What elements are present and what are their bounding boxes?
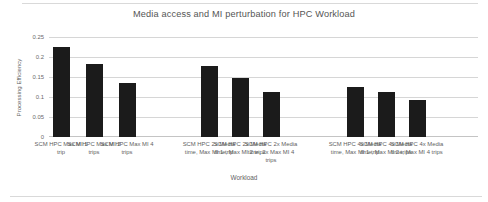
x-axis-title: Workload xyxy=(0,174,488,181)
gridline xyxy=(49,77,478,78)
scan-border-top xyxy=(22,3,478,4)
scan-border-bottom xyxy=(10,196,482,197)
bar xyxy=(86,64,103,137)
y-axis-tick-label: 0 xyxy=(10,134,44,140)
chart-container: Media access and MI perturbation for HPC… xyxy=(0,0,488,202)
plot-area xyxy=(49,37,478,137)
bar xyxy=(53,47,70,137)
bar xyxy=(232,78,249,137)
y-axis-tick-label: 0.05 xyxy=(10,114,44,120)
y-axis-title: Processing Efficiency xyxy=(14,37,24,137)
y-axis-title-label: Processing Efficiency xyxy=(16,58,23,116)
y-axis-tick-label: 0.1 xyxy=(10,94,44,100)
x-axis-category-label: SCM HPC 2x Media time, 2x Max MI 4 trips xyxy=(244,140,298,165)
bar xyxy=(201,66,218,137)
y-axis-tick-label: 0.15 xyxy=(10,74,44,80)
bar xyxy=(409,100,426,137)
gridline xyxy=(49,57,478,58)
chart-title: Media access and MI perturbation for HPC… xyxy=(0,9,488,19)
bar xyxy=(378,92,395,137)
y-axis-tick-label: 0.25 xyxy=(10,34,44,40)
bar xyxy=(263,92,280,137)
y-axis-tick-label: 0.2 xyxy=(10,54,44,60)
x-axis-category-label: SCM HPC Max MI 4 trips xyxy=(100,140,154,156)
bar xyxy=(119,83,136,137)
gridline xyxy=(49,37,478,38)
bar xyxy=(347,87,364,137)
x-axis-category-label: SCM HPC 4x Media time, Max MI 4 trips xyxy=(390,140,444,156)
